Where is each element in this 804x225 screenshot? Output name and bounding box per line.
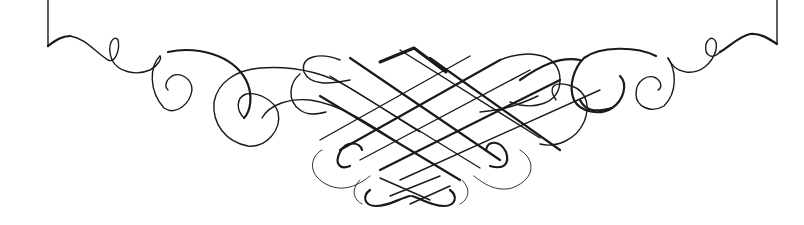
bottom-small-knot [354, 176, 468, 206]
left-bracket-edge [48, 0, 70, 46]
left-scroll-flourish [70, 36, 420, 146]
right-bracket-edge [720, 0, 777, 52]
center-lattice-knot [291, 48, 600, 189]
right-scroll-flourish [480, 38, 720, 145]
flourish-ornament [0, 0, 804, 225]
ornament-canvas: Calligraphic flourish ornament beneath a… [0, 0, 804, 225]
